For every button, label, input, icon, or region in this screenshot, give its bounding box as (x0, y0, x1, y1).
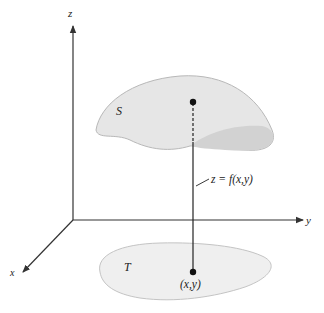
surface-label: S (116, 104, 122, 118)
function-label: z = f(x,y) (210, 173, 253, 186)
x-axis-label: x (9, 267, 15, 278)
x-axis (23, 220, 73, 272)
z-axis-label: z (67, 7, 73, 19)
y-axis-label: y (305, 214, 311, 226)
surface-integral-diagram: z y x S T z = f(x,y) (x,y) (0, 0, 324, 313)
region-point (190, 269, 196, 275)
function-label-leader (196, 179, 209, 186)
point-label: (x,y) (180, 278, 201, 291)
surface-point (190, 99, 196, 105)
